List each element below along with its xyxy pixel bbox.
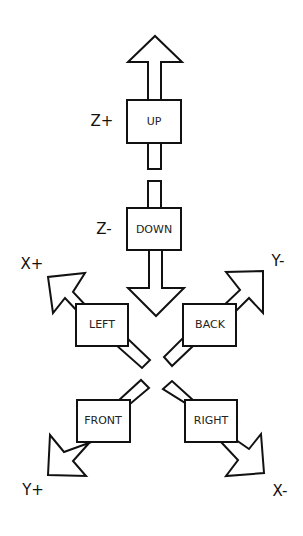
x-minus-label: X- — [273, 482, 288, 500]
back-box-label: BACK — [195, 318, 226, 331]
up-arrow-group: UP Z+ — [91, 36, 182, 169]
direction-diagram: UP Z+ DOWN Z- LEFT X+ BACK Y- FRONT Y+ — [0, 0, 303, 536]
down-tail — [148, 181, 161, 208]
left-box-label: LEFT — [89, 318, 115, 331]
y-plus-label: Y+ — [21, 481, 44, 499]
x-plus-label: X+ — [21, 255, 44, 273]
up-arrow-icon — [128, 36, 182, 100]
right-arrow-group: RIGHT X- — [163, 381, 287, 500]
down-arrow-icon — [128, 250, 184, 316]
front-arrow-group: FRONT Y+ — [21, 380, 149, 499]
down-arrow-group: DOWN Z- — [96, 181, 184, 316]
z-plus-label: Z+ — [91, 112, 114, 130]
up-box-label: UP — [147, 115, 162, 128]
right-box-label: RIGHT — [194, 414, 229, 427]
up-tail — [148, 143, 161, 169]
front-box-label: FRONT — [84, 414, 122, 427]
z-minus-label: Z- — [96, 220, 111, 238]
down-box-label: DOWN — [136, 223, 172, 236]
y-minus-label: Y- — [271, 252, 285, 270]
back-arrow-group: BACK Y- — [164, 252, 284, 367]
left-arrow-group: LEFT X+ — [21, 255, 150, 369]
